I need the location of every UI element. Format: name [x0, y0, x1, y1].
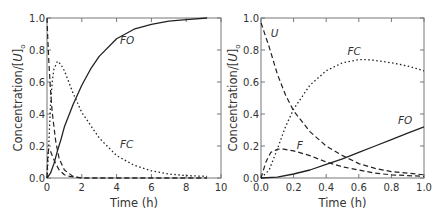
y-tick-label: 1.0	[29, 13, 45, 24]
x-axis-label: Time (h)	[109, 196, 158, 210]
series-fc-line	[47, 61, 207, 178]
x-axis-label: Time (h)	[317, 196, 366, 210]
x-tick-label: 6	[148, 182, 154, 193]
x-tick-label: 0.6	[351, 182, 367, 193]
x-tick-label: 4	[113, 182, 119, 193]
y-tick-label: 0.2	[243, 141, 259, 152]
x-tick-label: 0.0	[253, 182, 269, 193]
y-tick-label: 0.8	[29, 45, 45, 56]
y-tick-label: 0.8	[243, 45, 259, 56]
curve-label-f: F	[297, 139, 304, 151]
y-tick-label: 0.0	[243, 173, 259, 184]
y-tick-label: 0.6	[243, 77, 259, 88]
x-tick-label: 10	[215, 182, 228, 193]
x-tick-label: 0.8	[383, 182, 399, 193]
x-tick-label: 1.0	[416, 182, 432, 193]
series-fo-line	[261, 127, 424, 178]
series-f-line	[47, 149, 207, 178]
y-tick-label: 0.0	[29, 173, 45, 184]
x-tick-label: 0.2	[286, 182, 302, 193]
x-tick-label: 2	[79, 182, 85, 193]
curve-label-fc: FC	[347, 45, 361, 57]
y-tick-label: 0.2	[29, 141, 45, 152]
y-tick-label: 0.6	[29, 77, 45, 88]
x-tick-label: 0.4	[318, 182, 334, 193]
y-axis-label: Concentration/[U]o	[226, 45, 242, 152]
y-axis-label: Concentration/[U]o	[11, 45, 27, 152]
curve-label-fc: FC	[120, 138, 134, 150]
curve-label-u: U	[271, 27, 279, 39]
series-u-line	[261, 23, 424, 175]
x-tick-label: 0	[44, 182, 50, 193]
left-panel: 02468100.00.20.40.60.81.0Time (h)Concent…	[11, 13, 227, 211]
curve-label-fo: FO	[398, 114, 412, 126]
y-tick-label: 0.4	[243, 109, 259, 120]
series-f-line	[261, 149, 424, 178]
right-panel: 0.00.20.40.60.81.00.00.20.40.60.81.0Time…	[226, 13, 432, 211]
x-tick-label: 8	[183, 182, 189, 193]
y-tick-label: 0.4	[29, 109, 45, 120]
plot-frame	[261, 18, 424, 178]
y-tick-label: 1.0	[243, 13, 259, 24]
figure: 02468100.00.20.40.60.81.0Time (h)Concent…	[0, 0, 443, 218]
curve-label-fo: FO	[120, 34, 134, 46]
